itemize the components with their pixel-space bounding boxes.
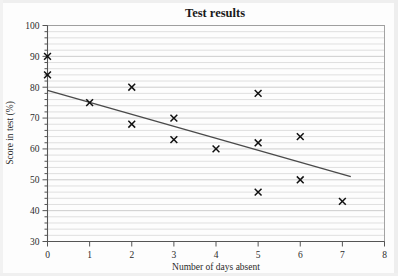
chart-title: Test results: [185, 6, 245, 20]
x-tick-label: 4: [214, 250, 219, 260]
x-tick-label: 8: [382, 250, 387, 260]
chart-canvas: Test results 30405060708090100 012345678…: [0, 0, 398, 276]
plot-frame: [48, 26, 385, 242]
x-axis-title: Number of days absent: [172, 262, 260, 272]
x-tick-label: 0: [45, 250, 50, 260]
x-tick-label: 1: [87, 250, 92, 260]
x-axis: 012345678: [45, 242, 387, 260]
y-tick-label: 70: [30, 113, 40, 123]
y-axis: 30405060708090100: [25, 21, 47, 247]
x-tick-label: 6: [298, 250, 303, 260]
x-tick-label: 7: [340, 250, 345, 260]
x-tick-label: 5: [256, 250, 261, 260]
y-tick-label: 40: [30, 206, 40, 216]
data-points: [44, 53, 346, 205]
y-tick-label: 60: [30, 144, 40, 154]
scatter-plot: Test results 30405060708090100 012345678…: [0, 0, 398, 276]
x-tick-label: 2: [129, 250, 134, 260]
data-point-marker: [339, 198, 346, 205]
line-of-best-fit: [48, 90, 351, 176]
x-tick-label: 3: [172, 250, 177, 260]
y-axis-title: Score in test (%): [5, 101, 16, 165]
trend-line: [48, 90, 351, 176]
gridlines: [48, 26, 385, 242]
data-point-marker: [170, 136, 177, 143]
y-tick-label: 30: [30, 237, 40, 247]
y-tick-label: 50: [30, 175, 40, 185]
y-tick-label: 80: [30, 83, 40, 93]
y-tick-label: 100: [25, 21, 40, 31]
y-tick-label: 90: [30, 52, 40, 62]
plot-area-border: [48, 26, 385, 242]
